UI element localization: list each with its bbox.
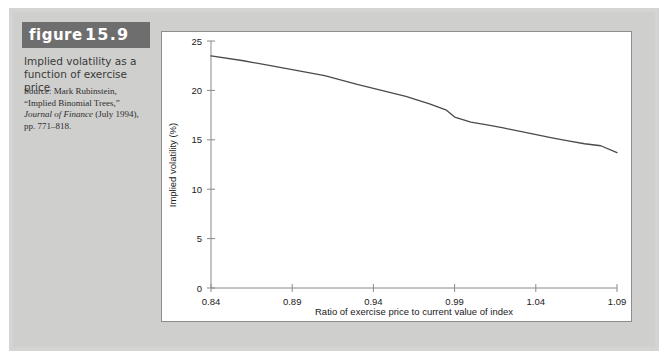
- chart-axes: [211, 41, 617, 288]
- source-line-1: “Implied Binomial Trees,”: [24, 98, 152, 110]
- source-line-2: Journal of Finance (July 1994),: [24, 109, 152, 121]
- source-line-0: Source: Mark Rubinstein,: [24, 86, 152, 98]
- y-axis-title: Implied volatility (%): [167, 123, 178, 207]
- figure-label-word: figure: [29, 26, 83, 44]
- data-series-line: [211, 56, 617, 153]
- x-tick-label: 1.04: [527, 296, 546, 307]
- caption-column: figure 15.9 Implied volatility as a func…: [22, 22, 150, 322]
- y-tick-label: 0: [197, 283, 202, 294]
- source-journal-name: Journal of Finance: [24, 109, 93, 119]
- source-line-3: pp. 771–818.: [24, 121, 152, 133]
- figure-number-badge: figure 15.9: [22, 22, 150, 48]
- chart-panel: 0510152025 0.840.890.940.991.041.09 Impl…: [161, 31, 632, 322]
- x-tick-label: 0.84: [202, 296, 221, 307]
- x-tick-label: 0.89: [283, 296, 302, 307]
- source-line-2-rest: (July 1994),: [93, 109, 139, 119]
- y-tick-label: 25: [191, 36, 202, 47]
- y-tick-label: 10: [191, 184, 202, 195]
- figure-number: 15.9: [85, 25, 129, 44]
- x-tick-label: 1.09: [608, 296, 627, 307]
- x-axis-title: Ratio of exercise price to current value…: [315, 306, 513, 317]
- y-tick-label: 20: [191, 85, 202, 96]
- y-tick-label: 5: [197, 233, 202, 244]
- implied-volatility-line-chart: 0510152025 0.840.890.940.991.041.09 Impl…: [162, 32, 631, 321]
- figure-page: figure 15.9 Implied volatility as a func…: [0, 0, 668, 359]
- figure-source-note: Source: Mark Rubinstein, “Implied Binomi…: [24, 86, 152, 132]
- x-tick-group: 0.840.890.940.991.041.09: [202, 284, 627, 307]
- y-tick-label: 15: [191, 134, 202, 145]
